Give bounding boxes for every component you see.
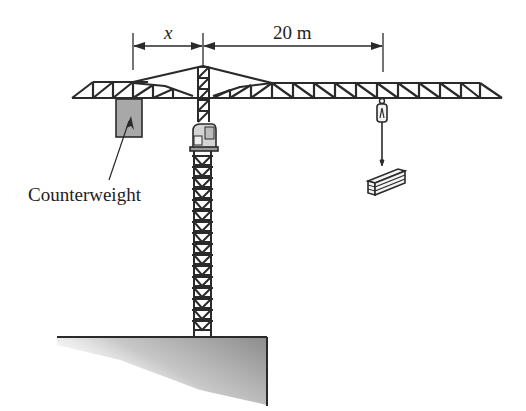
counterweight-label: Counterweight xyxy=(28,184,142,205)
operator-cab xyxy=(190,124,218,151)
dimension-label-x: x xyxy=(163,22,173,43)
tower-mast xyxy=(192,151,213,337)
crane-diagram: x 20 m xyxy=(0,0,526,411)
counterweight-block xyxy=(116,99,142,137)
jib-truss xyxy=(72,66,502,98)
ground-block xyxy=(57,337,267,406)
hook-block xyxy=(377,104,387,122)
dimension-label-20m: 20 m xyxy=(273,22,312,43)
mast-panels xyxy=(192,156,213,330)
suspended-load xyxy=(368,169,405,195)
hook-assembly xyxy=(377,99,387,167)
tower-head xyxy=(198,67,209,122)
main-jib-panels xyxy=(272,83,480,98)
